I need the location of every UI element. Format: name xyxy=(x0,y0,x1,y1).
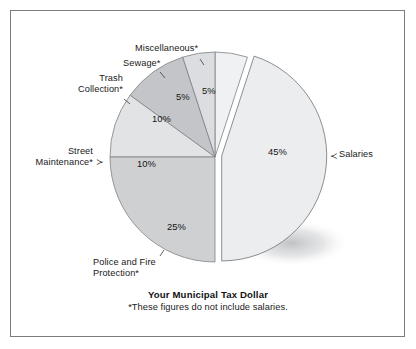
slice-percent-trash-collection: 10% xyxy=(152,113,171,124)
arrow-right-icon-street-maintenance: ≻ xyxy=(96,158,104,167)
callout-label-street-maintenance-line1: Street xyxy=(10,146,93,158)
title-block: Your Municipal Tax Dollar *These figures… xyxy=(0,289,416,312)
slice-percent-salaries: 45% xyxy=(268,146,287,157)
slice-percent-police-and-fire: 25% xyxy=(167,221,186,232)
slice-percent-miscellaneous: 5% xyxy=(202,85,216,96)
callout-label-street-maintenance-line2: Maintenance* xyxy=(10,157,93,169)
chart-footnote: *These figures do not include salaries. xyxy=(0,302,416,312)
slice-percent-sewage: 5% xyxy=(176,91,190,102)
arrow-left-icon-salaries: ≺ xyxy=(330,152,338,161)
callout-label-miscellaneous: Miscellaneous* xyxy=(135,43,198,55)
callout-label-salaries: Salaries xyxy=(339,149,373,161)
leader-tick-police-and-fire xyxy=(160,250,164,256)
callout-label-sewage: Sewage* xyxy=(123,58,160,70)
slice-percent-street-maintenance: 10% xyxy=(137,158,156,169)
callout-label-police-and-fire-line1: Police and Fire xyxy=(93,257,156,269)
chart-title: Your Municipal Tax Dollar xyxy=(0,289,416,300)
pie-chart-figure: 45% 25% 10% 10% 5% 5% Miscellaneous* Sew… xyxy=(0,0,416,349)
callout-label-trash-collection-line2: Collection* xyxy=(20,84,123,96)
callout-label-trash-collection-line1: Trash xyxy=(20,73,123,85)
callout-label-police-and-fire-line2: Protection* xyxy=(93,268,139,280)
pie-slice-police-and-fire[interactable] xyxy=(110,157,215,262)
